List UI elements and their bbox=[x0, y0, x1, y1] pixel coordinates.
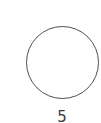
node-label: 5 bbox=[52, 110, 72, 123]
canvas: 5 bbox=[0, 0, 101, 123]
circle-node[interactable] bbox=[26, 26, 99, 99]
